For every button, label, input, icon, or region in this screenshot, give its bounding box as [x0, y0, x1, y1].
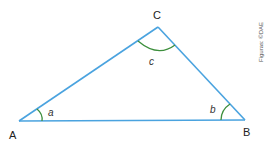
figure-credit: Figuras: ©DAE: [258, 14, 270, 64]
side-ac: [19, 27, 158, 121]
vertex-label-c: C: [153, 10, 161, 21]
vertex-label-b: B: [243, 127, 250, 138]
angle-arc-c: [138, 41, 175, 51]
side-bc: [158, 27, 245, 120]
credit-text: Figuras: ©DAE: [258, 22, 264, 62]
angle-arc-a: [37, 109, 42, 121]
side-ab: [19, 120, 245, 121]
angle-label-c: c: [149, 57, 154, 67]
angle-arcs: [37, 41, 230, 121]
angle-label-a: a: [48, 108, 54, 118]
angle-label-b: b: [210, 105, 216, 115]
vertex-label-a: A: [9, 130, 16, 141]
triangle-diagram: [0, 0, 276, 150]
angle-arc-b: [221, 104, 230, 120]
